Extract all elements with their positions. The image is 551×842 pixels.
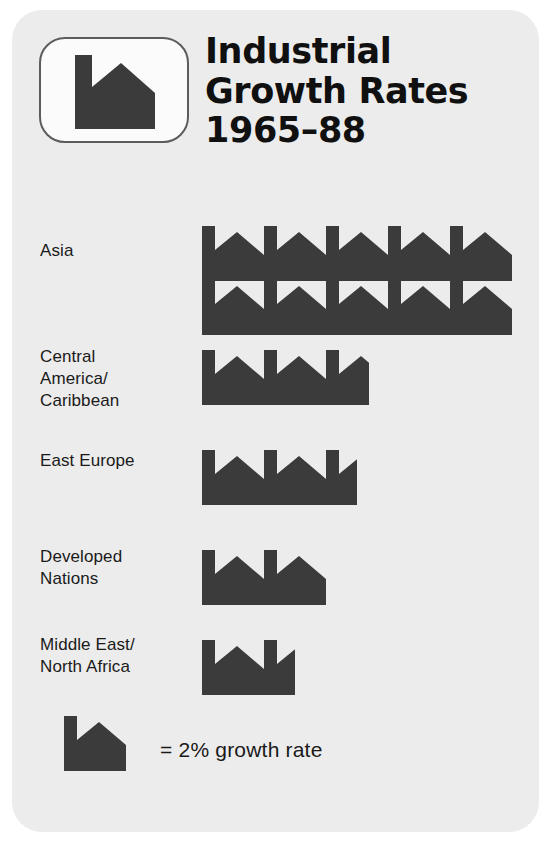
- page-title: Industrial Growth Rates 1965–88: [205, 32, 525, 151]
- row-label: East Europe: [40, 450, 200, 472]
- legend-label: = 2% growth rate: [160, 738, 323, 762]
- icon-line: [202, 450, 542, 505]
- chart-row: Asia: [12, 208, 539, 318]
- factory-icon: [326, 350, 369, 405]
- title-line-3: 1965–88: [205, 111, 525, 151]
- icon-line: [202, 640, 542, 695]
- legend: = 2% growth rate: [12, 710, 539, 790]
- title-line-1: Industrial: [205, 32, 525, 72]
- header: Industrial Growth Rates 1965–88: [12, 10, 539, 190]
- factory-icon: [202, 226, 264, 281]
- row-label: Middle East/North Africa: [40, 634, 200, 678]
- factory-icon: [388, 226, 450, 281]
- row-label: Asia: [40, 240, 200, 262]
- factory-icon: [450, 280, 512, 335]
- factory-icon: [202, 640, 264, 695]
- row-label-line: Asia: [40, 240, 200, 262]
- factory-icon: [202, 450, 264, 505]
- factory-icon: [202, 350, 264, 405]
- factory-icon: [264, 226, 326, 281]
- row-label-line: Nations: [40, 568, 200, 590]
- title-line-2: Growth Rates: [205, 72, 525, 112]
- row-label-line: Caribbean: [40, 390, 200, 412]
- icon-line: [202, 226, 542, 281]
- icon-line: [202, 350, 542, 405]
- infographic-card: Industrial Growth Rates 1965–88 AsiaCent…: [12, 10, 539, 832]
- chart-row: CentralAmerica/Caribbean: [12, 338, 539, 448]
- factory-icon: [388, 280, 450, 335]
- factory-icon: [264, 640, 295, 695]
- row-label-line: Developed: [40, 546, 200, 568]
- factory-icon: [202, 550, 264, 605]
- factory-icon: [326, 280, 388, 335]
- row-label: DevelopedNations: [40, 546, 200, 590]
- factory-icon: [326, 450, 357, 505]
- factory-icon: [326, 226, 388, 281]
- factory-icon: [202, 280, 264, 335]
- row-label-line: East Europe: [40, 450, 200, 472]
- factory-icon: [450, 226, 512, 281]
- factory-icon: [264, 350, 326, 405]
- factory-icon: [264, 280, 326, 335]
- factory-icon: [264, 550, 326, 605]
- chart-row: East Europe: [12, 438, 539, 548]
- row-label-line: Central: [40, 346, 200, 368]
- row-label-line: Middle East/: [40, 634, 200, 656]
- row-label-line: America/: [40, 368, 200, 390]
- row-label-line: North Africa: [40, 656, 200, 678]
- factory-icon: [264, 450, 326, 505]
- icon-line: [202, 280, 542, 335]
- icon-line: [202, 550, 542, 605]
- legend-factory-icon: [64, 716, 126, 771]
- factory-icon: [75, 55, 155, 129]
- row-label: CentralAmerica/Caribbean: [40, 346, 200, 411]
- logo-container: [39, 37, 189, 143]
